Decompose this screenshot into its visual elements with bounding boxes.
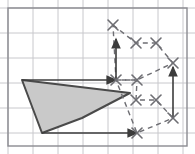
background (0, 0, 195, 154)
figure-canvas (0, 0, 195, 154)
transformation-diagram (0, 0, 195, 154)
